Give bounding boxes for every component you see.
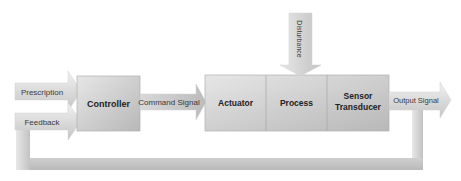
disturbance-arrow: Disturbance — [280, 13, 321, 76]
plant-box: Actuator Process Sensor Transducer — [205, 75, 389, 131]
command-signal-arrow: Command Signal — [138, 84, 206, 120]
prescription-arrow: Prescription — [15, 71, 81, 111]
process-label: Process — [280, 98, 313, 108]
loop-bottom-segment — [16, 158, 423, 170]
command-signal-label: Command Signal — [138, 98, 200, 107]
feedback-label: Feedback — [24, 118, 60, 127]
controller-label: Controller — [87, 99, 130, 109]
loop-left-segment — [16, 128, 30, 170]
transducer-label: Transducer — [335, 102, 382, 112]
actuator-label: Actuator — [218, 98, 254, 108]
disturbance-label: Disturbance — [296, 20, 303, 57]
controller-block: Controller — [77, 76, 140, 131]
sensor-label: Sensor — [344, 91, 374, 101]
output-signal-label: Output Signal — [393, 96, 439, 105]
control-loop-diagram: Prescription Feedback Controller Command… — [0, 0, 461, 181]
prescription-label: Prescription — [21, 88, 63, 97]
